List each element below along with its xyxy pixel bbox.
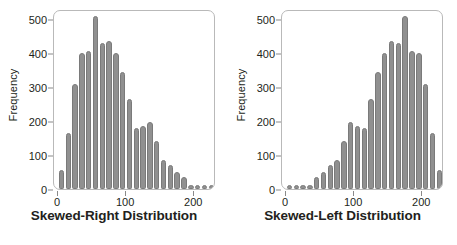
chart-title-left: Skewed-Right Distribution — [0, 208, 228, 223]
histogram-bar — [134, 128, 139, 189]
histogram-bar — [168, 165, 173, 189]
x-tick-label: 100 — [344, 196, 362, 208]
histogram-bar — [147, 122, 152, 189]
histogram-bar — [328, 165, 333, 189]
histogram-bar — [314, 177, 319, 189]
histogram-bar — [120, 72, 125, 189]
histogram-bar — [72, 84, 77, 189]
chart-panel-skewed-left: Frequency 0100200300400500 0100200 Skewe… — [228, 0, 457, 245]
bar-series-right — [282, 11, 442, 189]
histogram-bar — [300, 185, 305, 189]
y-tick-label: 400 — [29, 48, 47, 60]
histogram-bar — [93, 16, 98, 189]
y-axis-title-left-text: Frequency — [7, 69, 19, 122]
histogram-bar — [161, 160, 166, 189]
histogram-bar — [402, 16, 407, 189]
histogram-bar — [409, 51, 414, 189]
histogram-bar — [341, 141, 346, 189]
histogram-bar — [100, 43, 105, 189]
histogram-bar — [423, 84, 428, 189]
y-axis-ticks-right: 0100200300400500 — [248, 0, 281, 190]
x-tick-label: 100 — [116, 196, 134, 208]
histogram-bar — [66, 133, 71, 189]
histogram-bar — [396, 43, 401, 189]
plot-area-right — [281, 10, 443, 190]
histogram-bar — [375, 72, 380, 189]
histogram-bar — [294, 185, 299, 189]
histogram-bar — [79, 53, 84, 189]
x-axis-left: 0100200 — [53, 191, 215, 209]
histogram-bar — [154, 141, 159, 189]
histogram-bar — [59, 170, 64, 189]
y-axis-ticks-left: 0100200300400500 — [20, 0, 53, 190]
histogram-bar — [437, 170, 442, 189]
chart-title-right: Skewed-Left Distribution — [228, 208, 457, 223]
y-tick-label: 500 — [257, 14, 275, 26]
histogram-bar — [430, 133, 435, 189]
plot-area-left — [53, 10, 215, 190]
chart-panel-skewed-right: Frequency 0100200300400500 0100200 Skewe… — [0, 0, 228, 245]
y-tick-label: 200 — [29, 116, 47, 128]
histogram-bar — [389, 41, 394, 189]
y-tick-label: 400 — [257, 48, 275, 60]
histogram-bar — [181, 177, 186, 189]
histogram-bar — [307, 185, 312, 189]
histogram-bar — [202, 185, 207, 189]
histogram-bar — [174, 172, 179, 189]
histogram-bar — [348, 122, 353, 189]
histogram-bar — [140, 126, 145, 189]
histogram-bar — [368, 99, 373, 189]
histogram-bar — [188, 185, 193, 189]
histogram-bar — [321, 172, 326, 189]
histogram-bar — [287, 185, 292, 189]
y-tick-label: 300 — [257, 82, 275, 94]
histogram-bar — [106, 41, 111, 189]
x-tick-label: 0 — [54, 196, 60, 208]
x-tick-label: 0 — [282, 196, 288, 208]
histogram-bar — [195, 185, 200, 189]
y-tick-label: 200 — [257, 116, 275, 128]
histogram-bar — [127, 99, 132, 189]
y-axis-title-right-text: Frequency — [235, 69, 247, 122]
y-tick-label: 300 — [29, 82, 47, 94]
histogram-bar — [355, 126, 360, 189]
y-tick-label: 100 — [257, 150, 275, 162]
histogram-figure: Frequency 0100200300400500 0100200 Skewe… — [0, 0, 457, 245]
x-tick-label: 200 — [184, 196, 202, 208]
histogram-bar — [416, 53, 421, 189]
histogram-bar — [86, 51, 91, 189]
bar-series-left — [54, 11, 214, 189]
histogram-bar — [362, 128, 367, 189]
histogram-bar — [209, 185, 214, 189]
y-tick-label: 100 — [29, 150, 47, 162]
y-tick-label: 0 — [41, 184, 47, 196]
y-tick-label: 500 — [29, 14, 47, 26]
y-tick-label: 0 — [269, 184, 275, 196]
x-tick-label: 200 — [412, 196, 430, 208]
histogram-bar — [382, 53, 387, 189]
histogram-bar — [334, 160, 339, 189]
x-axis-right: 0100200 — [281, 191, 443, 209]
histogram-bar — [113, 53, 118, 189]
